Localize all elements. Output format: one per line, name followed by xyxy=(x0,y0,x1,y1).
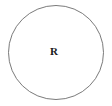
region-label-r: R xyxy=(0,45,112,57)
diagram-canvas: R xyxy=(0,0,112,106)
